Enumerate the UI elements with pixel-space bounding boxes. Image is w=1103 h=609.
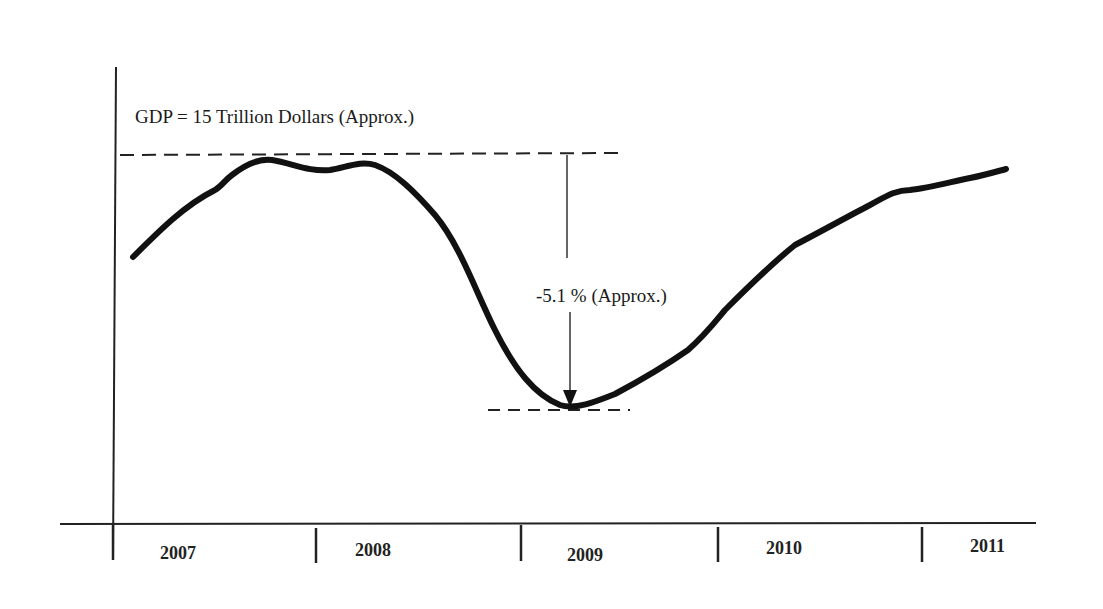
x-tick-label-2007: 2007 — [160, 543, 196, 564]
peak-reference-line — [120, 153, 620, 155]
x-tick-label-2009: 2009 — [567, 545, 603, 566]
drop-percent-label: -5.1 % (Approx.) — [536, 285, 667, 307]
peak-gdp-label: GDP = 15 Trillion Dollars (Approx.) — [135, 106, 414, 128]
x-tick-label-2010: 2010 — [766, 538, 802, 559]
x-tick-label-2008: 2008 — [355, 540, 391, 561]
y-axis — [113, 67, 116, 560]
x-tick-label-2011: 2011 — [970, 536, 1005, 557]
x-axis — [60, 523, 1036, 524]
